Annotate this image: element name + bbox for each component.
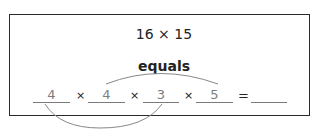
times-sign: × [130,88,139,104]
factor-blank-1[interactable]: 4 [33,88,70,103]
equals-label: equals [0,58,328,74]
expression: 16 × 15 [0,26,328,42]
times-sign: × [76,88,85,104]
equals-sign: = [238,88,249,103]
factor-blank-3[interactable]: 3 [143,88,179,103]
factor-row: 4 × 4 × 3 × 5 = [0,88,328,108]
factor-blank-4[interactable]: 5 [196,88,233,103]
times-sign: × [184,88,193,104]
result-blank[interactable] [251,88,287,103]
factor-blank-2[interactable]: 4 [88,88,125,103]
